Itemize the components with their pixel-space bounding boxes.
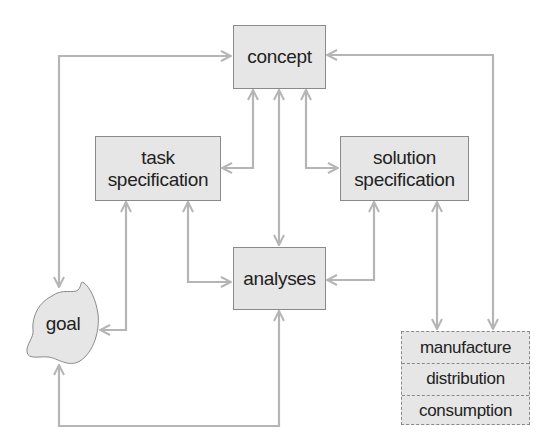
task-specification-box: task specification <box>95 136 221 201</box>
lifecycle-row-consumption: consumption <box>402 395 529 426</box>
edge-solution-analyses <box>327 202 374 280</box>
concept-label: concept <box>247 46 311 68</box>
lifecycle-row-manufacture: manufacture <box>402 332 529 363</box>
lifecycle-row-distribution: distribution <box>402 363 529 394</box>
edge-concept-task <box>222 90 253 168</box>
edge-task-analyses <box>188 202 231 282</box>
task-spec-line1: task <box>141 147 175 169</box>
solution-specification-box: solution specification <box>340 136 469 201</box>
edge-concept-solution <box>306 90 338 168</box>
lifecycle-stack: manufacture distribution consumption <box>401 331 530 425</box>
edge-task-goal <box>100 202 126 330</box>
design-process-diagram: concept task specification solution spec… <box>0 0 556 447</box>
concept-box: concept <box>233 25 326 89</box>
task-spec-line2: specification <box>108 169 209 191</box>
solution-spec-line1: solution <box>373 147 436 169</box>
goal-label: goal <box>27 313 99 335</box>
solution-spec-line2: specification <box>354 169 455 191</box>
analyses-box: analyses <box>233 247 326 310</box>
analyses-label: analyses <box>243 268 316 290</box>
